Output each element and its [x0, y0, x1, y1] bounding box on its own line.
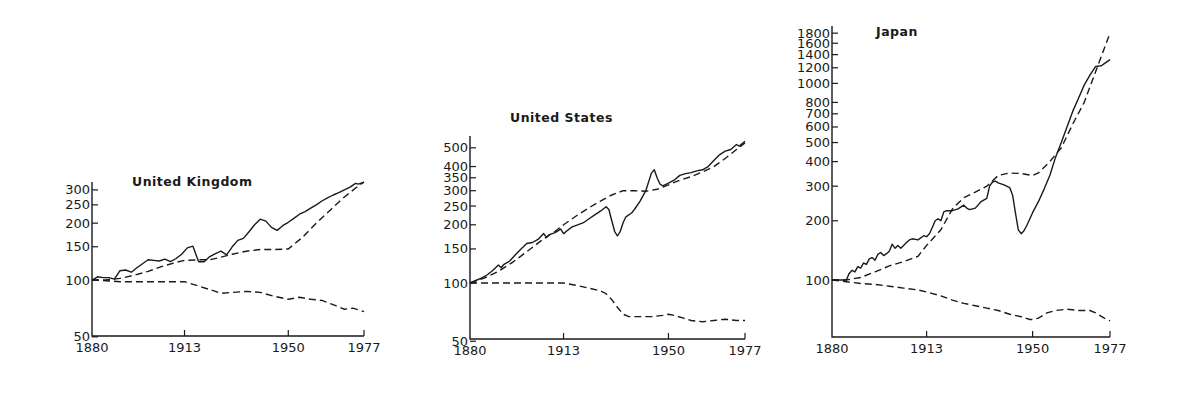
x-tick-label: 1977 — [347, 340, 380, 355]
y-tick-label: 100 — [443, 276, 468, 291]
y-tick-label: 500 — [443, 140, 468, 155]
series-line-dashed-lower — [92, 280, 364, 312]
x-tick-label: 1880 — [453, 343, 486, 358]
series-line-dashed-upper — [832, 33, 1110, 280]
y-tick-label: 200 — [805, 213, 830, 228]
x-tick-label: 1977 — [728, 343, 761, 358]
series-line-dashed-upper — [92, 182, 364, 280]
chart-canvas: United Kingdom50100150200250300188019131… — [0, 0, 1178, 412]
y-tick-label: 150 — [65, 239, 90, 254]
y-tick-label: 250 — [65, 197, 90, 212]
chart-united-states: United States501001502002503003504005001… — [443, 110, 761, 358]
x-tick-label: 1977 — [1093, 341, 1126, 356]
x-tick-label: 1950 — [652, 343, 685, 358]
y-tick-label: 1200 — [797, 60, 830, 75]
x-tick-label: 1950 — [272, 340, 305, 355]
x-tick-label: 1950 — [1016, 341, 1049, 356]
y-tick-label: 600 — [805, 119, 830, 134]
y-tick-label: 300 — [443, 183, 468, 198]
y-tick-label: 500 — [805, 135, 830, 150]
y-tick-label: 1800 — [797, 26, 830, 41]
x-tick-label: 1880 — [75, 340, 108, 355]
axes — [92, 182, 364, 336]
chart-title: Japan — [875, 24, 918, 39]
series-line-solid — [92, 182, 364, 280]
chart-united-kingdom: United Kingdom50100150200250300188019131… — [65, 174, 380, 355]
axes — [470, 136, 745, 339]
x-tick-label: 1913 — [910, 341, 943, 356]
y-tick-label: 200 — [443, 217, 468, 232]
x-tick-label: 1913 — [547, 343, 580, 358]
y-tick-label: 300 — [65, 182, 90, 197]
y-tick-label: 100 — [65, 273, 90, 288]
chart-title: United Kingdom — [132, 174, 252, 189]
chart-japan: Japan10020030040050060070080010001200140… — [797, 24, 1127, 356]
y-tick-label: 100 — [805, 273, 830, 288]
y-tick-label: 1000 — [797, 76, 830, 91]
y-tick-label: 200 — [65, 216, 90, 231]
x-tick-label: 1880 — [815, 341, 848, 356]
series-line-dashed-lower — [470, 283, 745, 322]
series-line-dashed-upper — [470, 143, 745, 283]
x-tick-label: 1913 — [168, 340, 201, 355]
y-tick-label: 800 — [805, 95, 830, 110]
y-tick-label: 250 — [443, 199, 468, 214]
y-tick-label: 300 — [805, 179, 830, 194]
y-tick-label: 400 — [805, 154, 830, 169]
series-line-solid — [470, 141, 745, 283]
series-line-dashed-lower — [832, 280, 1110, 321]
y-tick-label: 400 — [443, 159, 468, 174]
y-tick-label: 150 — [443, 241, 468, 256]
series-line-solid — [832, 60, 1110, 280]
chart-title: United States — [510, 110, 613, 125]
axes — [832, 26, 1110, 337]
